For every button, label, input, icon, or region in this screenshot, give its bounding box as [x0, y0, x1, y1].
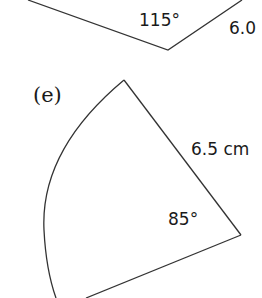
figure-e-radius-label: 6.5 cm	[191, 141, 249, 158]
sector-arc	[44, 80, 124, 298]
figure-e-angle-label: 85°	[168, 211, 198, 228]
figure-e-part-label: (e)	[33, 85, 62, 106]
figure-d-angle-label: 115°	[139, 12, 180, 29]
sector-radius-bottom	[86, 235, 241, 298]
figure-d-edges	[28, 0, 242, 50]
figure-d-side-label: 6.0	[229, 20, 256, 37]
